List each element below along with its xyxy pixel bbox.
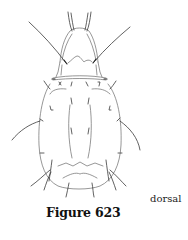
view-label: dorsal — [150, 193, 182, 204]
transverse-band — [52, 76, 107, 86]
figure-caption: Figure 623 — [46, 205, 120, 220]
body-outline — [39, 84, 121, 189]
anterior-hood — [56, 28, 102, 77]
